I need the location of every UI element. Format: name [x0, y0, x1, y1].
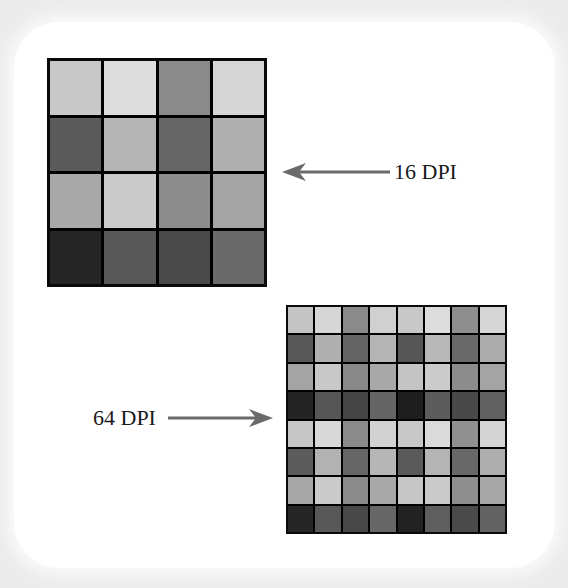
- pixel-cell: [213, 174, 264, 228]
- pixel-cell: [370, 449, 395, 475]
- pixel-cell: [315, 449, 340, 475]
- pixel-cell: [398, 506, 423, 532]
- pixel-cell: [425, 364, 450, 390]
- pixel-cell: [50, 231, 101, 285]
- pixel-cell: [452, 421, 477, 447]
- grid-16dpi: [47, 58, 267, 287]
- pixel-cell: [213, 61, 264, 115]
- pixel-cell: [159, 118, 210, 172]
- pixel-cell: [288, 449, 313, 475]
- pixel-cell: [452, 506, 477, 532]
- pixel-cell: [480, 477, 505, 503]
- pixel-cell: [104, 231, 155, 285]
- pixel-cell: [343, 392, 368, 418]
- pixel-cell: [159, 174, 210, 228]
- pixel-cell: [343, 307, 368, 333]
- pixel-cell: [452, 364, 477, 390]
- pixel-cell: [288, 477, 313, 503]
- pixel-cell: [104, 61, 155, 115]
- pixel-cell: [398, 477, 423, 503]
- pixel-cell: [398, 421, 423, 447]
- pixel-cell: [343, 506, 368, 532]
- pixel-cell: [50, 174, 101, 228]
- pixel-cell: [480, 364, 505, 390]
- pixel-cell: [315, 392, 340, 418]
- pixel-cell: [370, 335, 395, 361]
- pixel-cell: [370, 392, 395, 418]
- pixel-cell: [425, 421, 450, 447]
- pixel-cell: [343, 421, 368, 447]
- pixel-cell: [452, 335, 477, 361]
- pixel-cell: [425, 477, 450, 503]
- pixel-cell: [104, 118, 155, 172]
- pixel-cell: [343, 364, 368, 390]
- label-64dpi: 64 DPI: [93, 407, 156, 429]
- pixel-cell: [315, 364, 340, 390]
- pixel-cell: [452, 477, 477, 503]
- pixel-cell: [370, 477, 395, 503]
- pixel-cell: [315, 335, 340, 361]
- pixel-cell: [452, 449, 477, 475]
- pixel-cell: [213, 231, 264, 285]
- pixel-cell: [315, 421, 340, 447]
- pixel-cell: [398, 449, 423, 475]
- pixel-cell: [398, 307, 423, 333]
- pixel-cell: [343, 335, 368, 361]
- pixel-cell: [288, 364, 313, 390]
- pixel-cell: [315, 477, 340, 503]
- pixel-cell: [425, 392, 450, 418]
- pixel-cell: [480, 392, 505, 418]
- label-16dpi: 16 DPI: [394, 161, 457, 183]
- pixel-cell: [370, 307, 395, 333]
- pixel-cell: [480, 335, 505, 361]
- pixel-cell: [315, 506, 340, 532]
- pixel-cell: [50, 118, 101, 172]
- arrow-right-icon: [166, 408, 276, 428]
- pixel-cell: [480, 421, 505, 447]
- pixel-cell: [213, 118, 264, 172]
- grid-64dpi: [286, 305, 507, 534]
- pixel-cell: [370, 364, 395, 390]
- pixel-cell: [288, 335, 313, 361]
- pixel-cell: [288, 421, 313, 447]
- pixel-cell: [425, 307, 450, 333]
- pixel-cell: [452, 307, 477, 333]
- pixel-cell: [452, 392, 477, 418]
- pixel-cell: [343, 449, 368, 475]
- pixel-cell: [370, 421, 395, 447]
- pixel-cell: [425, 335, 450, 361]
- pixel-cell: [398, 392, 423, 418]
- pixel-cell: [50, 61, 101, 115]
- pixel-cell: [425, 506, 450, 532]
- arrow-left-icon: [280, 162, 392, 182]
- pixel-cell: [159, 61, 210, 115]
- pixel-cell: [480, 506, 505, 532]
- pixel-cell: [370, 506, 395, 532]
- pixel-cell: [480, 449, 505, 475]
- pixel-cell: [159, 231, 210, 285]
- pixel-cell: [425, 449, 450, 475]
- pixel-cell: [343, 477, 368, 503]
- pixel-cell: [288, 506, 313, 532]
- pixel-cell: [480, 307, 505, 333]
- pixel-cell: [315, 307, 340, 333]
- pixel-cell: [398, 335, 423, 361]
- pixel-cell: [104, 174, 155, 228]
- pixel-cell: [288, 392, 313, 418]
- pixel-cell: [398, 364, 423, 390]
- pixel-cell: [288, 307, 313, 333]
